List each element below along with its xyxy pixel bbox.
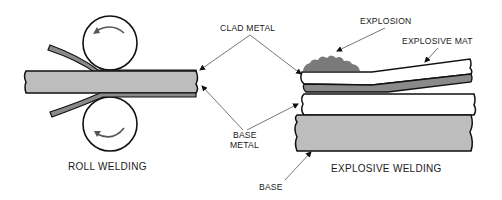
roll-welding-title: ROLL WELDING [68,161,147,172]
explosive-welding-figure: EXPLOSION EXPLOSIVE MAT EXPLOSIVE WELDIN… [295,16,476,174]
welding-diagram: ROLL WELDING CLAD METAL BASE METAL BASE … [0,0,502,200]
clad-metal-label: CLAD METAL [220,23,275,33]
base-metal-plate [302,94,476,115]
explosive-welding-title: EXPLOSIVE WELDING [331,163,442,174]
bottom-roller [83,97,137,151]
base-metal-label-line2: METAL [230,140,259,150]
base-metal-label-line1: BASE [233,130,257,140]
label-leaders: CLAD METAL BASE METAL BASE [200,23,311,192]
base-label: BASE [259,182,283,192]
base-plate [25,71,198,93]
top-roller [83,16,137,70]
roll-welding-figure: ROLL WELDING [25,16,198,172]
explosive-mat-label: EXPLOSIVE MAT [402,36,473,46]
explosion-cloud [303,56,360,72]
base-plate [295,115,472,151]
explosion-label: EXPLOSION [360,16,411,26]
